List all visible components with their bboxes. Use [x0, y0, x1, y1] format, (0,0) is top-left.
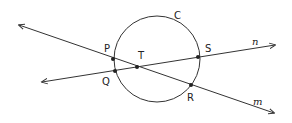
point-r [189, 83, 193, 87]
line-m [19, 25, 274, 113]
label-c: C [174, 10, 181, 21]
point-s [196, 55, 200, 59]
label-s: S [205, 43, 211, 54]
geometry-diagram: C P Q T S R n m [0, 0, 292, 123]
label-r: R [187, 92, 194, 103]
label-p: P [104, 43, 110, 54]
label-m: m [253, 96, 262, 107]
point-t [135, 65, 139, 69]
line-n [42, 45, 275, 82]
point-q [113, 69, 117, 73]
label-q: Q [102, 76, 110, 87]
label-n: n [252, 36, 258, 47]
label-t: T [137, 50, 145, 61]
point-p [111, 57, 115, 61]
